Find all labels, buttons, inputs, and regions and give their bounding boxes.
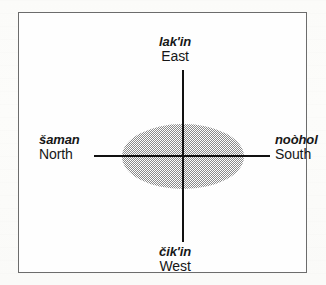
label-south-native: noòhol [275, 133, 318, 147]
label-west-gloss: West [159, 259, 191, 274]
label-north-gloss: North [39, 147, 80, 162]
label-east-gloss: East [159, 49, 191, 64]
direction-diagram-figure: lak'in East šaman North noòhol South čik… [0, 0, 326, 285]
label-east-native: lak'in [159, 35, 191, 49]
label-south: noòhol South [275, 133, 318, 162]
label-west-native: čik'in [159, 245, 191, 259]
label-east: lak'in East [159, 35, 191, 64]
horizontal-axis-line [94, 155, 270, 157]
diagram-frame: lak'in East šaman North noòhol South čik… [18, 12, 307, 273]
label-north-native: šaman [39, 133, 80, 147]
label-north: šaman North [39, 133, 80, 162]
label-south-gloss: South [275, 147, 318, 162]
label-west: čik'in West [159, 245, 191, 274]
